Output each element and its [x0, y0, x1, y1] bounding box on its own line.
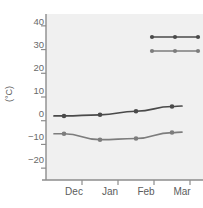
- data-point: [62, 114, 67, 119]
- legend-marker: [150, 35, 154, 39]
- data-point: [170, 130, 175, 135]
- legend-marker: [150, 49, 154, 53]
- data-point: [98, 137, 103, 142]
- y-axis-ticks: [41, 26, 46, 168]
- data-point: [98, 112, 103, 117]
- legend-marker: [196, 35, 200, 39]
- legend-marker: [173, 35, 177, 39]
- temperature-line-chart: (°C) 40 30 20 10 0 −10 −20 Dec Jan Feb M…: [0, 0, 203, 208]
- plot-canvas: [0, 0, 203, 208]
- legend-marker: [173, 49, 177, 53]
- plot-background: [46, 14, 203, 180]
- data-point: [62, 131, 67, 136]
- data-point: [134, 136, 139, 141]
- legend-marker: [196, 49, 200, 53]
- data-point: [134, 109, 139, 114]
- data-point: [170, 104, 175, 109]
- x-axis-ticks: [82, 180, 190, 185]
